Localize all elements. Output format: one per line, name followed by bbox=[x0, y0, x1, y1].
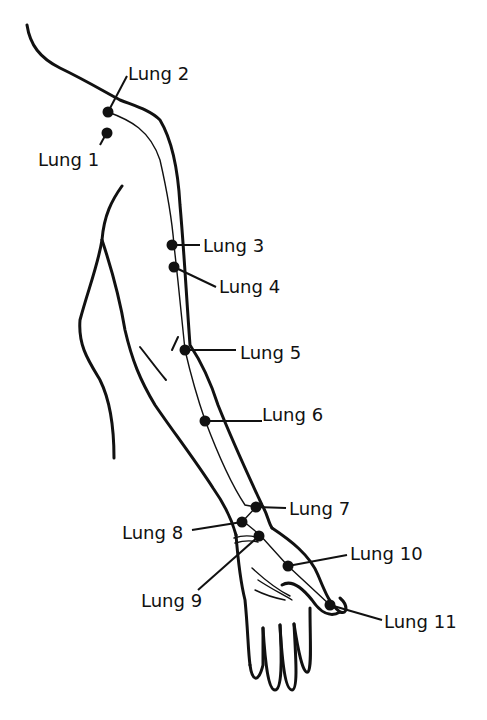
lung-11-label: Lung 11 bbox=[384, 611, 457, 632]
lung-8-point[interactable] bbox=[237, 517, 248, 528]
lung-1-point[interactable] bbox=[102, 128, 113, 139]
lung-1-label: Lung 1 bbox=[38, 149, 99, 170]
lung-7-point[interactable] bbox=[251, 502, 262, 513]
lung-8-label: Lung 8 bbox=[122, 522, 183, 543]
lung-9-point[interactable] bbox=[254, 531, 265, 542]
lung-5-point[interactable] bbox=[180, 345, 191, 356]
lung-4-label: Lung 4 bbox=[219, 276, 280, 297]
lung-7-label: Lung 7 bbox=[289, 498, 350, 519]
lung-2-label: Lung 2 bbox=[128, 63, 189, 84]
lung-9-label: Lung 9 bbox=[141, 590, 202, 611]
lung-10-label: Lung 10 bbox=[350, 543, 423, 564]
lung-10-point[interactable] bbox=[283, 561, 294, 572]
lung-11-point[interactable] bbox=[325, 600, 336, 611]
lung-4-point[interactable] bbox=[169, 262, 180, 273]
lung-3-label: Lung 3 bbox=[203, 235, 264, 256]
lung-meridian-diagram: Lung 2 Lung 1 Lung 3 Lung 4 Lung 5 Lung … bbox=[0, 0, 487, 720]
lung-3-point[interactable] bbox=[167, 240, 178, 251]
lung-6-point[interactable] bbox=[200, 416, 211, 427]
lung-2-point[interactable] bbox=[103, 107, 114, 118]
lung-6-label: Lung 6 bbox=[262, 404, 323, 425]
lung-5-label: Lung 5 bbox=[240, 342, 301, 363]
